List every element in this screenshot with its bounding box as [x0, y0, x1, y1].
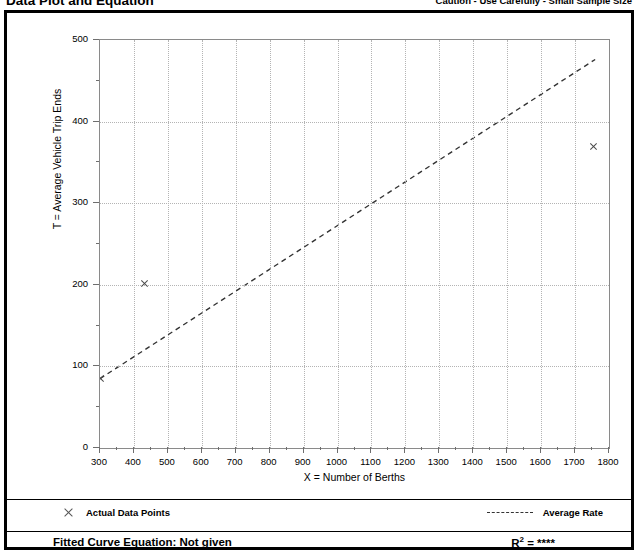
footer: Fitted Curve Equation: Not given R2 = **… — [7, 531, 631, 547]
x-axis-minor-tick — [455, 447, 456, 450]
gridline-horizontal — [100, 285, 609, 286]
x-axis-minor-tick — [523, 447, 524, 450]
y-axis-tick-label: 400 — [52, 115, 88, 126]
x-axis-minor-tick — [489, 447, 490, 450]
x-axis-minor-tick — [591, 447, 592, 450]
x-axis-tick — [337, 447, 338, 453]
plot-box — [99, 39, 610, 449]
y-axis-minor-tick — [96, 243, 99, 244]
fitted-curve-equation: Fitted Curve Equation: Not given — [53, 536, 232, 548]
data-point-marker — [100, 374, 105, 383]
y-axis-tick — [93, 202, 99, 203]
x-axis-tick — [404, 447, 405, 453]
gridline-vertical — [304, 40, 305, 448]
x-axis-tick — [201, 447, 202, 453]
gridline-vertical — [371, 40, 372, 448]
legend-item-data-points: Actual Data Points — [63, 507, 170, 518]
x-axis-minor-tick — [286, 447, 287, 450]
y-axis-tick-label: 500 — [52, 33, 88, 44]
caution-note: Caution - Use Carefully - Small Sample S… — [436, 0, 632, 6]
legend-item-average-rate: Average Rate — [487, 507, 603, 518]
x-axis-minor-tick — [320, 447, 321, 450]
y-axis-tick-label: 200 — [52, 278, 88, 289]
y-axis-tick — [93, 284, 99, 285]
dashed-line-icon — [487, 512, 533, 513]
x-axis-tick — [303, 447, 304, 453]
y-axis-tick — [93, 39, 99, 40]
gridline-horizontal — [100, 122, 609, 123]
gridline-vertical — [507, 40, 508, 448]
gridline-vertical — [168, 40, 169, 448]
x-axis-minor-tick — [354, 447, 355, 450]
legend: Actual Data Points Average Rate — [7, 499, 631, 531]
page-title: Data Plot and Equation — [6, 0, 154, 8]
y-axis-tick — [93, 121, 99, 122]
x-axis-minor-tick — [116, 447, 117, 450]
plot-inner — [100, 40, 609, 448]
r-squared-number: = **** — [527, 537, 555, 549]
x-axis-tick — [540, 447, 541, 453]
r-squared-value: R2 = **** — [511, 535, 555, 549]
y-axis-minor-tick — [96, 80, 99, 81]
y-axis-tick-label: 100 — [52, 359, 88, 370]
x-axis-minor-tick — [184, 447, 185, 450]
page-header: Data Plot and Equation Caution - Use Car… — [0, 0, 640, 10]
legend-data-points-label: Actual Data Points — [86, 507, 170, 518]
y-axis-tick — [93, 365, 99, 366]
x-axis-tick — [99, 447, 100, 453]
gridline-vertical — [405, 40, 406, 448]
x-axis-title: X = Number of Berths — [99, 471, 610, 483]
gridline-vertical — [134, 40, 135, 448]
legend-average-rate-label: Average Rate — [543, 507, 603, 518]
gridline-vertical — [541, 40, 542, 448]
r-squared-prefix: R — [511, 537, 519, 549]
x-axis-tick — [133, 447, 134, 453]
gridline-vertical — [236, 40, 237, 448]
gridline-vertical — [202, 40, 203, 448]
gridline-vertical — [338, 40, 339, 448]
x-axis-tick — [269, 447, 270, 453]
y-axis-title: T = Average Vehicle Trip Ends — [51, 0, 63, 359]
x-axis-minor-tick — [557, 447, 558, 450]
data-point-marker — [140, 279, 149, 288]
gridline-vertical — [270, 40, 271, 448]
gridline-horizontal — [100, 366, 609, 367]
y-axis-tick-label: 0 — [52, 441, 88, 452]
average-rate-line — [100, 40, 609, 448]
x-axis-minor-tick — [387, 447, 388, 450]
x-axis-tick — [167, 447, 168, 453]
x-axis-tick — [472, 447, 473, 453]
r-squared-exponent: 2 — [520, 535, 524, 544]
x-axis-minor-tick — [421, 447, 422, 450]
y-axis-minor-tick — [96, 406, 99, 407]
x-axis-tick — [608, 447, 609, 453]
x-axis-tick — [506, 447, 507, 453]
x-axis-tick — [574, 447, 575, 453]
x-axis-tick — [370, 447, 371, 453]
cross-marker-icon — [63, 507, 74, 518]
gridline-vertical — [575, 40, 576, 448]
y-axis-minor-tick — [96, 161, 99, 162]
x-axis-tick — [235, 447, 236, 453]
y-axis-tick-label: 300 — [52, 196, 88, 207]
data-point-marker — [589, 142, 598, 151]
x-axis-tick-label: 1800 — [588, 456, 628, 467]
chart-frame: T = Average Vehicle Trip Ends X = Number… — [4, 10, 634, 550]
x-axis-minor-tick — [218, 447, 219, 450]
x-axis-minor-tick — [150, 447, 151, 450]
gridline-vertical — [439, 40, 440, 448]
chart-area: T = Average Vehicle Trip Ends X = Number… — [7, 13, 633, 499]
gridline-horizontal — [100, 203, 609, 204]
gridline-vertical — [473, 40, 474, 448]
y-axis-tick — [93, 447, 99, 448]
x-axis-minor-tick — [252, 447, 253, 450]
y-axis-minor-tick — [96, 325, 99, 326]
x-axis-tick — [438, 447, 439, 453]
